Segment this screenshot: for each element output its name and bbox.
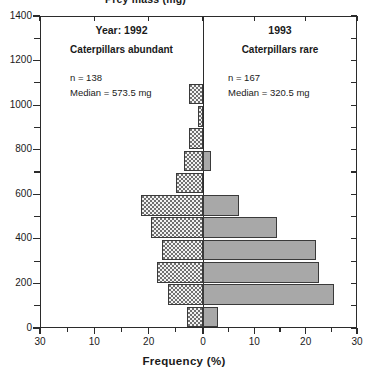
- histogram-bar: [187, 307, 203, 328]
- left-n-label: n = 138: [70, 72, 102, 83]
- x-tick-top: [148, 16, 149, 21]
- y-tick-right: [351, 171, 357, 172]
- y-tick-label: 1200: [2, 54, 32, 65]
- x-tick-top: [202, 16, 203, 21]
- histogram-bar: [203, 195, 239, 216]
- y-tick-label: 1000: [2, 99, 32, 110]
- y-tick-right: [351, 105, 357, 106]
- right-panel-title: 1993: [96, 24, 368, 36]
- y-tick-right: [351, 305, 357, 306]
- x-tick-minor: [331, 328, 332, 332]
- x-tick-top: [94, 16, 95, 21]
- histogram-bar: [198, 106, 203, 127]
- histogram-bar: [176, 173, 203, 194]
- y-tick-major: [33, 238, 40, 239]
- left-median-label: Median = 573.5 mg: [70, 87, 152, 98]
- histogram-bar: [203, 240, 316, 261]
- x-tick-major: [305, 328, 306, 334]
- histogram-bar: [203, 151, 211, 172]
- y-tick-right: [351, 82, 357, 83]
- right-panel-subtitle: Caterpillars rare: [96, 44, 368, 55]
- x-tick-major: [356, 328, 357, 334]
- y-tick-right: [351, 261, 357, 262]
- right-n-label: n = 167: [228, 72, 260, 83]
- histogram-bar: [203, 307, 218, 328]
- histogram-bar: [189, 128, 203, 149]
- x-tick-minor: [175, 328, 176, 332]
- y-tick-label: 1400: [2, 10, 32, 21]
- right-median-label: Median = 320.5 mg: [228, 87, 310, 98]
- y-tick-label: 0: [2, 322, 32, 333]
- y-tick-label: 200: [2, 277, 32, 288]
- y-tick-major: [33, 283, 40, 284]
- y-tick-right: [351, 60, 357, 61]
- histogram-bar: [203, 262, 319, 283]
- x-tick-label: 10: [234, 336, 274, 347]
- y-tick-right: [351, 283, 357, 284]
- x-tick-major: [94, 328, 95, 334]
- y-tick-minor: [34, 216, 40, 217]
- x-tick-top: [356, 16, 357, 21]
- y-tick-right: [351, 194, 357, 195]
- y-tick-right: [351, 327, 357, 328]
- y-tick-major: [33, 149, 40, 150]
- y-tick-right: [351, 127, 357, 128]
- y-tick-minor: [34, 261, 40, 262]
- y-tick-right: [351, 38, 357, 39]
- y-tick-right: [351, 149, 357, 150]
- histogram-bar: [184, 151, 203, 172]
- y-tick-major: [33, 194, 40, 195]
- figure-canvas: Prey mass (mg) 0200400600800100012001400…: [0, 0, 368, 379]
- x-tick-major: [148, 328, 149, 334]
- x-tick-label: 0: [183, 336, 223, 347]
- x-tick-top: [39, 16, 40, 21]
- y-tick-minor: [34, 127, 40, 128]
- y-tick-minor: [34, 82, 40, 83]
- x-tick-minor: [279, 328, 280, 332]
- x-tick-label: 30: [20, 336, 60, 347]
- y-tick-right: [351, 216, 357, 217]
- x-tick-top: [305, 16, 306, 21]
- y-tick-major: [33, 60, 40, 61]
- x-tick-major: [39, 328, 40, 334]
- x-tick-label: 30: [337, 336, 368, 347]
- x-tick-label: 10: [74, 336, 114, 347]
- y-tick-label: 800: [2, 143, 32, 154]
- histogram-bar: [157, 262, 203, 283]
- histogram-bar: [189, 84, 203, 105]
- x-tick-minor: [228, 328, 229, 332]
- y-tick-label: 400: [2, 232, 32, 243]
- histogram-bar: [203, 284, 334, 305]
- y-tick-major: [33, 105, 40, 106]
- histogram-bar: [162, 240, 203, 261]
- y-tick-minor: [34, 171, 40, 172]
- x-tick-minor: [67, 328, 68, 332]
- histogram-bar: [168, 284, 203, 305]
- histogram-bar: [203, 217, 277, 238]
- x-tick-top: [254, 16, 255, 21]
- x-tick-major: [202, 328, 203, 334]
- x-tick-label: 20: [286, 336, 326, 347]
- y-tick-right: [351, 238, 357, 239]
- histogram-bar: [141, 195, 203, 216]
- x-tick-major: [254, 328, 255, 334]
- x-axis-title: Frequency (%): [0, 355, 368, 367]
- y-tick-minor: [34, 38, 40, 39]
- clipped-axis-title: Prey mass (mg): [105, 0, 186, 5]
- x-tick-minor: [121, 328, 122, 332]
- histogram-bar: [151, 217, 203, 238]
- y-tick-label: 600: [2, 188, 32, 199]
- x-tick-label: 20: [129, 336, 169, 347]
- y-tick-minor: [34, 305, 40, 306]
